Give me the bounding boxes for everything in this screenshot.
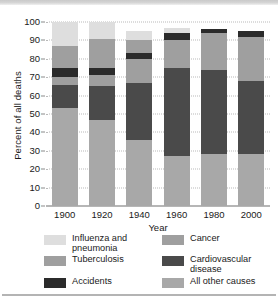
bar-1980[interactable] bbox=[201, 22, 227, 206]
legend-swatch-accidents bbox=[44, 278, 66, 288]
legend-label-all-other-causes: All other causes bbox=[190, 277, 255, 287]
bar-series bbox=[46, 22, 270, 206]
legend-item-all-other-causes[interactable]: All other causes bbox=[162, 277, 278, 288]
legend-swatch-influenza-and-pneumonia bbox=[44, 235, 66, 245]
bar-segment-1980-cancer[interactable] bbox=[201, 33, 227, 70]
bar-segment-1940-cardiovascular-disease[interactable] bbox=[126, 83, 152, 140]
y-tick-label-0: 0 bbox=[14, 201, 40, 211]
bar-segment-1940-all-other-causes[interactable] bbox=[126, 140, 152, 206]
bar-segment-1940-tuberculosis[interactable] bbox=[126, 40, 152, 53]
legend-swatch-cancer bbox=[162, 235, 184, 245]
x-axis-title: Year bbox=[46, 222, 270, 233]
y-tickmark-80 bbox=[41, 58, 45, 59]
bar-segment-1900-accidents[interactable] bbox=[52, 68, 78, 77]
bar-segment-1940-cancer[interactable] bbox=[126, 59, 152, 83]
scan-rule-bottom bbox=[2, 294, 276, 296]
legend-label-accidents: Accidents bbox=[72, 277, 112, 287]
y-tick-label-70: 70 bbox=[14, 72, 40, 82]
bar-segment-1940-accidents[interactable] bbox=[126, 53, 152, 59]
bar-segment-2000-all-other-causes[interactable] bbox=[238, 154, 264, 206]
legend-item-cancer[interactable]: Cancer bbox=[162, 234, 278, 245]
x-tick-label-1900: 1900 bbox=[45, 209, 85, 220]
y-tickmark-30 bbox=[41, 150, 45, 151]
x-tick-label-1960: 1960 bbox=[157, 209, 197, 220]
y-tick-label-10: 10 bbox=[14, 183, 40, 193]
bar-segment-1980-all-other-causes[interactable] bbox=[201, 154, 227, 206]
bar-1920[interactable] bbox=[89, 22, 115, 206]
bar-segment-1920-accidents[interactable] bbox=[89, 68, 115, 75]
axes bbox=[46, 22, 270, 206]
bar-segment-2000-cancer[interactable] bbox=[238, 37, 264, 81]
bar-segment-1900-cancer[interactable] bbox=[52, 77, 78, 84]
legend-item-accidents[interactable]: Accidents bbox=[44, 277, 160, 288]
x-tick-label-1980: 1980 bbox=[194, 209, 234, 220]
bar-segment-1900-influenza-and-pneumonia[interactable] bbox=[52, 22, 78, 46]
bar-segment-1900-all-other-causes[interactable] bbox=[52, 108, 78, 206]
bar-segment-1960-cancer[interactable] bbox=[164, 40, 190, 68]
y-tickmark-10 bbox=[41, 187, 45, 188]
legend-label-cardiovascular-disease: Cardiovascular disease bbox=[190, 255, 251, 274]
legend-label-influenza-and-pneumonia: Influenza and pneumonia bbox=[72, 234, 127, 253]
legend-swatch-tuberculosis bbox=[44, 256, 66, 266]
x-tick-label-1920: 1920 bbox=[82, 209, 122, 220]
bar-segment-1920-all-other-causes[interactable] bbox=[89, 120, 115, 206]
y-tickmark-60 bbox=[41, 95, 45, 96]
bar-segment-1920-tuberculosis[interactable] bbox=[89, 39, 115, 68]
legend-swatch-all-other-causes bbox=[162, 278, 184, 288]
y-tickmark-0 bbox=[41, 206, 45, 207]
y-tickmark-90 bbox=[41, 40, 45, 41]
bar-segment-2000-cardiovascular-disease[interactable] bbox=[238, 81, 264, 155]
bar-1940[interactable] bbox=[126, 22, 152, 206]
legend-item-influenza-and-pneumonia[interactable]: Influenza and pneumonia bbox=[44, 234, 160, 253]
bar-segment-1960-all-other-causes[interactable] bbox=[164, 156, 190, 206]
bar-segment-1900-tuberculosis[interactable] bbox=[52, 46, 78, 68]
plot-area: Percent of all deaths 100908070605040302… bbox=[0, 14, 278, 214]
y-tick-label-50: 50 bbox=[14, 109, 40, 119]
figure: Percent of all deaths 100908070605040302… bbox=[0, 0, 278, 304]
legend-column-right: CancerCardiovascular diseaseAll other ca… bbox=[162, 234, 278, 290]
y-tickmark-40 bbox=[41, 132, 45, 133]
y-axis-tick-labels: 1009080706050403020100 bbox=[14, 14, 40, 206]
bar-segment-1920-cancer[interactable] bbox=[89, 75, 115, 86]
bar-segment-1960-cardiovascular-disease[interactable] bbox=[164, 68, 190, 156]
bar-segment-1980-accidents[interactable] bbox=[201, 29, 227, 33]
legend-swatch-cardiovascular-disease bbox=[162, 256, 184, 266]
bar-segment-1900-cardiovascular-disease[interactable] bbox=[52, 85, 78, 109]
x-axis-tick-labels: 190019201940196019802000 bbox=[46, 208, 270, 222]
y-tick-label-60: 60 bbox=[14, 91, 40, 101]
y-tickmark-50 bbox=[41, 114, 45, 115]
legend: Influenza and pneumoniaTuberculosisAccid… bbox=[44, 234, 274, 290]
y-tickmark-70 bbox=[41, 77, 45, 78]
legend-item-cardiovascular-disease[interactable]: Cardiovascular disease bbox=[162, 255, 278, 274]
y-tick-label-40: 40 bbox=[14, 128, 40, 138]
scan-band-top bbox=[0, 0, 278, 5]
legend-label-cancer: Cancer bbox=[190, 234, 220, 244]
y-tick-label-80: 80 bbox=[14, 54, 40, 64]
bar-segment-1960-accidents[interactable] bbox=[164, 33, 190, 40]
bar-segment-1960-influenza-and-pneumonia[interactable] bbox=[164, 28, 190, 34]
bar-segment-2000-accidents[interactable] bbox=[238, 31, 264, 37]
legend-label-tuberculosis: Tuberculosis bbox=[72, 255, 124, 265]
y-tick-label-100: 100 bbox=[14, 17, 40, 27]
y-tick-label-90: 90 bbox=[14, 36, 40, 46]
bar-segment-1920-cardiovascular-disease[interactable] bbox=[89, 86, 115, 119]
y-tick-label-30: 30 bbox=[14, 146, 40, 156]
y-tick-label-20: 20 bbox=[14, 164, 40, 174]
bar-segment-1940-influenza-and-pneumonia[interactable] bbox=[126, 31, 152, 40]
y-tickmark-20 bbox=[41, 169, 45, 170]
x-tick-label-1940: 1940 bbox=[119, 209, 159, 220]
y-tickmark-100 bbox=[41, 22, 45, 23]
x-tick-label-2000: 2000 bbox=[231, 209, 271, 220]
bar-2000[interactable] bbox=[238, 22, 264, 206]
bar-1960[interactable] bbox=[164, 22, 190, 206]
bar-1900[interactable] bbox=[52, 22, 78, 206]
bar-segment-1980-cardiovascular-disease[interactable] bbox=[201, 70, 227, 155]
bar-segment-1920-influenza-and-pneumonia[interactable] bbox=[89, 22, 115, 39]
legend-item-tuberculosis[interactable]: Tuberculosis bbox=[44, 255, 160, 266]
legend-column-left: Influenza and pneumoniaTuberculosisAccid… bbox=[44, 234, 160, 290]
